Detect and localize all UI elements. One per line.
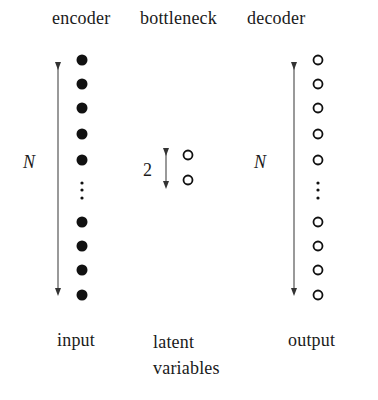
latent-label-line1: latent [153, 332, 194, 353]
ellipsis-dot [316, 188, 319, 191]
encoder-node [77, 241, 88, 252]
encoder-node [77, 103, 88, 114]
ellipsis-dot [316, 196, 319, 199]
decoder-node [314, 291, 323, 300]
ellipsis-dot [316, 181, 319, 184]
encoder-node [77, 155, 88, 166]
encoder-node [77, 217, 88, 228]
latent-node [184, 151, 193, 160]
latent-node [184, 176, 193, 185]
ellipsis-dot [80, 188, 83, 191]
decoder-node [314, 56, 323, 65]
input-label: input [57, 330, 95, 351]
output-label: output [288, 330, 335, 351]
encoder-node [77, 265, 88, 276]
encoder-node [77, 79, 88, 90]
latent-label-line2: variables [153, 358, 220, 379]
encoder-node [77, 55, 88, 66]
decoder-node [314, 104, 323, 113]
ellipsis-dot [80, 196, 83, 199]
decoder-node [314, 80, 323, 89]
encoder-node [77, 290, 88, 301]
encoder-node [77, 129, 88, 140]
bottleneck-nodes [184, 151, 193, 185]
decoder-node [314, 156, 323, 165]
encoder-nodes [77, 55, 88, 301]
decoder-node [314, 266, 323, 275]
decoder-node [314, 218, 323, 227]
decoder-node [314, 242, 323, 251]
ellipsis-dot [80, 181, 83, 184]
decoder-node [314, 130, 323, 139]
decoder-nodes [314, 56, 323, 300]
